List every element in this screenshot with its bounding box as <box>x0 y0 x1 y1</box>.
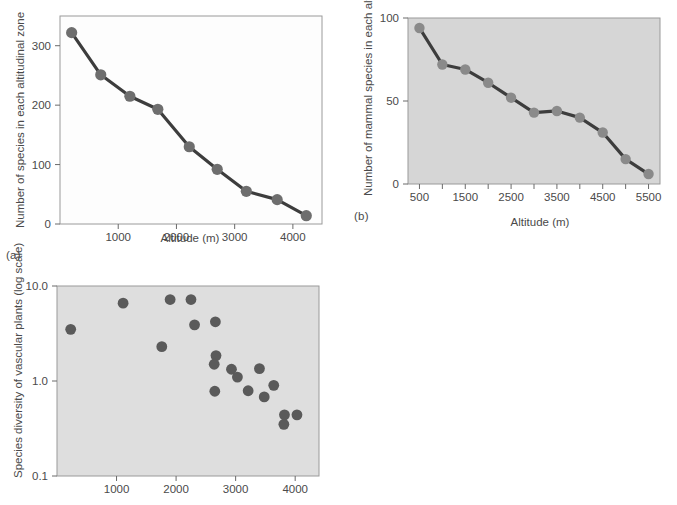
data-point-marker <box>210 316 221 327</box>
data-point-marker <box>243 385 254 396</box>
x-axis-tick-label: 2500 <box>498 191 524 203</box>
y-axis-tick-label: 10.0 <box>26 280 48 292</box>
data-point-marker <box>254 363 265 374</box>
data-point-marker <box>272 194 283 205</box>
y-axis-tick-label: 0 <box>393 178 399 190</box>
data-point-marker <box>552 106 562 116</box>
data-point-marker <box>460 64 470 74</box>
data-point-marker <box>301 210 312 221</box>
x-axis-tick-label: 3500 <box>544 191 570 203</box>
data-point-marker <box>65 324 76 335</box>
panel-b-label: (b) <box>354 210 369 222</box>
y-axis-tick-label: 100 <box>380 12 399 24</box>
data-point-marker <box>292 409 303 420</box>
data-point-marker <box>268 380 279 391</box>
data-point-marker <box>118 298 129 309</box>
x-axis-tick-label: 500 <box>410 191 429 203</box>
x-axis-tick-label: 1000 <box>104 483 130 495</box>
y-axis-tick-label: 50 <box>386 95 399 107</box>
data-point-marker <box>483 78 493 88</box>
data-point-marker <box>66 27 77 38</box>
data-point-marker <box>575 112 585 122</box>
data-point-marker <box>506 92 516 102</box>
data-point-marker <box>279 409 290 420</box>
panel-a-x-axis-title: Altitude (m) <box>120 232 260 244</box>
x-axis-tick-label: 5500 <box>636 191 662 203</box>
data-point-marker <box>598 127 608 137</box>
data-point-marker <box>232 372 243 383</box>
x-axis-tick-label: 3000 <box>223 483 249 495</box>
data-point-marker <box>259 392 270 403</box>
plot-area-background <box>57 286 319 476</box>
data-point-marker <box>437 59 447 69</box>
data-point-marker <box>529 107 539 117</box>
data-point-marker <box>124 91 135 102</box>
data-point-marker <box>620 154 630 164</box>
data-point-marker <box>643 169 653 179</box>
data-point-marker <box>241 186 252 197</box>
y-axis-tick-label: 0 <box>45 218 51 230</box>
x-axis-tick-label: 4000 <box>282 483 308 495</box>
y-axis-tick-label: 100 <box>32 159 51 171</box>
data-point-marker <box>156 341 167 352</box>
plot-area-background <box>60 16 322 224</box>
panel-b-x-axis-title: Altitude (m) <box>470 216 610 228</box>
data-point-marker <box>189 319 200 330</box>
x-axis-tick-label: 1500 <box>452 191 478 203</box>
panel-a: 01002003001000200030004000 Number of spe… <box>0 0 340 270</box>
data-point-marker <box>212 164 223 175</box>
panel-b-y-axis-title: Number of mammal species in each altitud… <box>362 26 376 196</box>
x-axis-tick-label: 4500 <box>590 191 616 203</box>
panel-c-y-axis-title: Species diversity of vascular plants (lo… <box>12 282 26 478</box>
y-axis-tick-label: 200 <box>32 99 51 111</box>
panel-a-y-axis-title: Number of species in each altitudinal zo… <box>14 18 26 228</box>
x-axis-tick-label: 4000 <box>280 231 306 243</box>
data-point-marker <box>95 69 106 80</box>
panel-b-plot: 05010050015002500350045005500 <box>350 0 677 225</box>
figure-root: 01002003001000200030004000 Number of spe… <box>0 0 677 505</box>
data-point-marker <box>414 23 424 33</box>
panel-a-plot: 01002003001000200030004000 <box>0 0 340 250</box>
data-point-marker <box>186 294 197 305</box>
data-point-marker <box>152 104 163 115</box>
data-point-marker <box>209 386 220 397</box>
data-point-marker <box>184 141 195 152</box>
y-axis-tick-label: 300 <box>32 40 51 52</box>
data-point-marker <box>209 359 220 370</box>
x-axis-tick-label: 2000 <box>163 483 189 495</box>
data-point-marker <box>165 294 176 305</box>
panel-c-plot: 0.11.010.01000200030004000 <box>0 272 340 505</box>
panel-c: 0.11.010.01000200030004000 Species diver… <box>0 272 340 505</box>
data-point-marker <box>278 419 289 430</box>
y-axis-tick-label: 0.1 <box>32 470 48 482</box>
panel-b: 05010050015002500350045005500 Number of … <box>350 0 677 245</box>
y-axis-tick-label: 1.0 <box>32 375 48 387</box>
